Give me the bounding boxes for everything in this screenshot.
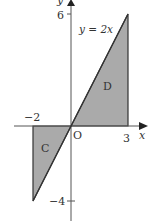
tick-label-y6: 6 [57,9,64,22]
tick-label-x3: 3 [123,132,130,145]
tick-label-yneg4: −4 [49,195,65,208]
region-label-c: C [41,142,49,155]
tick-label-xneg2: −2 [24,111,40,124]
line-equation-label: y = 2x [78,23,113,35]
region-label-d: D [103,80,112,93]
y-axis-arrow-icon [67,0,75,6]
x-axis-label: x [139,129,146,142]
origin-label: O [73,129,82,142]
graph-canvas: y 6 y = 2x D −2 O 3 x C −4 [0,0,155,221]
y-axis-label: y [56,0,64,7]
